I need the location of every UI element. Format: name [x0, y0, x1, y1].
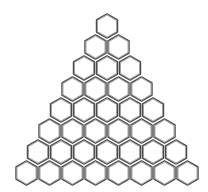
hexagon-cell — [108, 35, 129, 59]
hexagon-cell — [85, 77, 106, 101]
hexagon-cell — [119, 140, 140, 164]
hexagon-grid — [0, 0, 208, 192]
hexagon-cell — [85, 161, 106, 185]
hexagon-cell — [108, 161, 129, 185]
hexagon-cell — [50, 98, 71, 122]
hexagon-cell — [39, 119, 60, 143]
hexagon-cell — [108, 119, 129, 143]
hexagon-cell — [85, 119, 106, 143]
hexagon-cell — [131, 119, 152, 143]
hexagon-cell — [73, 140, 94, 164]
hexagon-cell — [39, 161, 60, 185]
hexagon-cell — [27, 140, 48, 164]
hexagon-cell — [131, 161, 152, 185]
hexagon-cell — [177, 161, 198, 185]
hexagon-cell — [73, 98, 94, 122]
hexagon-cell — [73, 56, 94, 80]
hexagon-cell — [50, 140, 71, 164]
hexagon-cell — [62, 77, 83, 101]
hexagon-cell — [62, 119, 83, 143]
hexagon-cell — [85, 35, 106, 59]
hexagon-cell — [16, 161, 37, 185]
hexagon-cell — [108, 77, 129, 101]
hexagon-cell — [154, 161, 175, 185]
hexagon-cell — [96, 14, 117, 38]
hexagon-cell — [131, 77, 152, 101]
hexagon-cell — [119, 98, 140, 122]
hexagon-cell — [96, 140, 117, 164]
hexagon-cell — [96, 98, 117, 122]
hexagon-cell — [165, 140, 186, 164]
hexagon-cell — [142, 98, 163, 122]
hexagon-cell — [96, 56, 117, 80]
hexagon-pyramid-diagram — [0, 0, 208, 192]
hexagon-cell — [119, 56, 140, 80]
hexagon-cell — [62, 161, 83, 185]
hexagon-cell — [142, 140, 163, 164]
hexagon-cell — [154, 119, 175, 143]
